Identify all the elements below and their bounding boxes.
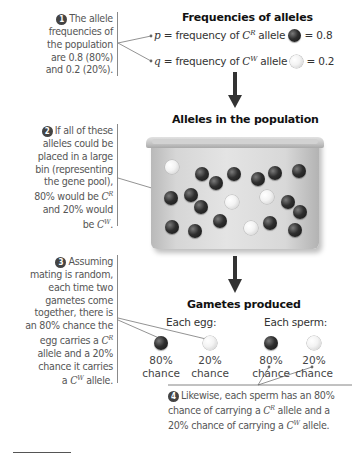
light-allele-ball — [260, 190, 274, 204]
light-allele-ball — [165, 160, 179, 174]
sperm-light-chance: 20% chance — [292, 354, 336, 379]
dark-allele-ball — [251, 172, 265, 186]
dark-allele-ball — [209, 176, 223, 190]
light-allele-icon — [290, 55, 303, 68]
population-title: Alleles in the population — [172, 113, 319, 126]
each-sperm-label: Each sperm: — [264, 316, 327, 328]
q-frequency-equation: q = frequency of CW allele = 0.2 — [154, 55, 334, 68]
dark-allele-ball — [164, 191, 178, 205]
dark-allele-ball — [227, 167, 241, 181]
egg-light-chance: 20% chance — [188, 354, 232, 379]
light-allele-ball — [225, 195, 239, 209]
egg-light-allele-ball — [203, 336, 217, 350]
dark-allele-ball — [194, 200, 208, 214]
sperm-dark-chance: 80% chance — [249, 354, 293, 379]
step-number-badge: 2 — [42, 126, 53, 137]
frequencies-title: Frequencies of alleles — [182, 11, 313, 24]
step-number-badge: 3 — [55, 257, 66, 268]
sperm-dark-allele-ball — [264, 336, 278, 350]
dark-allele-ball — [263, 216, 277, 230]
dark-allele-ball — [292, 164, 306, 178]
egg-dark-chance: 80% chance — [139, 354, 183, 379]
note-bracket — [117, 12, 118, 76]
dark-allele-ball — [188, 224, 202, 238]
arrow-down-icon — [228, 72, 242, 108]
dark-allele-icon — [288, 29, 301, 42]
dark-allele-ball — [268, 166, 282, 180]
note-step-4: 4Likewise, each sperm has an 80% chance … — [168, 389, 352, 432]
note-step-2: 2If all of these alleles could be placed… — [0, 124, 113, 231]
note-step-3: 3Assuming mating is random, each time tw… — [0, 255, 113, 387]
note-bracket — [117, 255, 118, 383]
step-number-badge: 1 — [56, 14, 67, 25]
bin-inner — [152, 139, 318, 144]
dark-allele-ball — [288, 223, 302, 237]
step-number-badge: 4 — [168, 391, 179, 402]
p-frequency-equation: p = frequency of CR allele = 0.8 — [154, 29, 332, 42]
note-step-1: 1The allele frequencies of the populatio… — [0, 12, 113, 76]
note-bracket — [117, 124, 118, 226]
arrow-down-icon — [228, 256, 242, 293]
each-egg-label: Each egg: — [166, 316, 216, 328]
light-allele-ball — [244, 221, 258, 235]
sperm-light-allele-ball — [307, 336, 321, 350]
dark-allele-ball — [293, 205, 307, 219]
dark-allele-ball — [195, 167, 209, 181]
dark-allele-ball — [281, 195, 295, 209]
footnote-rule — [13, 452, 71, 453]
egg-dark-allele-ball — [154, 336, 168, 350]
dark-allele-ball — [184, 188, 198, 202]
dark-allele-ball — [213, 214, 227, 228]
gametes-title: Gametes produced — [187, 298, 301, 311]
dark-allele-ball — [165, 220, 179, 234]
